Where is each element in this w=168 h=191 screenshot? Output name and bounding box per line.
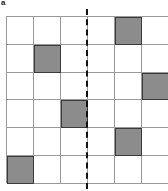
grid-cell-filled bbox=[115, 17, 142, 45]
grid-cell bbox=[88, 73, 115, 101]
grid-cell-filled bbox=[115, 128, 142, 156]
grid-cell bbox=[34, 156, 61, 184]
grid-cell bbox=[7, 100, 34, 128]
grid-cell-filled bbox=[142, 73, 168, 101]
grid-cell-filled bbox=[34, 45, 61, 73]
grid-cell bbox=[142, 156, 168, 184]
grid-cell bbox=[88, 100, 115, 128]
grid-cell bbox=[7, 128, 34, 156]
grid-cell-filled bbox=[7, 156, 34, 184]
grid-cell bbox=[115, 100, 142, 128]
grid-cell bbox=[115, 73, 142, 101]
grid-cell bbox=[88, 156, 115, 184]
grid-cell bbox=[61, 73, 88, 101]
grid-cell bbox=[88, 45, 115, 73]
dashed-divider-line bbox=[86, 9, 88, 189]
grid-cell bbox=[115, 156, 142, 184]
grid-cell bbox=[142, 45, 168, 73]
grid-cell bbox=[61, 17, 88, 45]
grid-cell bbox=[142, 128, 168, 156]
grid-cell bbox=[7, 73, 34, 101]
grid-cell bbox=[88, 17, 115, 45]
grid-cell bbox=[61, 156, 88, 184]
grid-cell bbox=[34, 73, 61, 101]
grid-cell-filled bbox=[61, 100, 88, 128]
panel-label: a bbox=[1, 0, 5, 7]
grid-cell bbox=[34, 100, 61, 128]
grid-cell bbox=[142, 100, 168, 128]
grid-cell bbox=[61, 128, 88, 156]
grid-cell bbox=[61, 45, 88, 73]
grid-cell bbox=[115, 45, 142, 73]
grid-cell bbox=[7, 17, 34, 45]
grid-cell bbox=[142, 17, 168, 45]
grid-cell bbox=[34, 17, 61, 45]
grid-cell bbox=[34, 128, 61, 156]
grid-cell bbox=[7, 45, 34, 73]
grid-cell bbox=[88, 128, 115, 156]
